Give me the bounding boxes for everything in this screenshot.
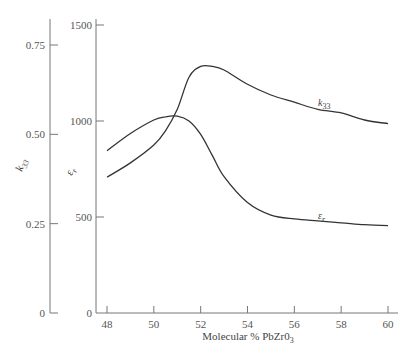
k33-axis (50, 19, 58, 313)
x-tick-label: 58 (336, 318, 348, 330)
x-tick-label: 50 (148, 318, 160, 330)
er-axis-title: εr (63, 165, 80, 178)
k33-tick-label: 0.50 (26, 128, 46, 140)
er-tick-label: 0 (87, 307, 93, 319)
svg-text:εr: εr (63, 165, 80, 178)
curves (107, 65, 388, 225)
k33-tick-label: 0.25 (26, 218, 46, 230)
k33-tick-label: 0.75 (26, 39, 46, 51)
k33-curve-label: k33 (318, 97, 330, 111)
er-tick-label: 500 (76, 211, 93, 223)
x-tick-label: 52 (195, 318, 206, 330)
x-tick-label: 48 (102, 318, 114, 330)
k33-tick-label: 0 (40, 307, 46, 319)
x-tick-label: 60 (383, 318, 395, 330)
x-tick-label: 54 (242, 318, 254, 330)
chart-canvas: 4850525456586000.250.500.75050010001500 … (0, 0, 418, 359)
er-tick-label: 1500 (70, 19, 93, 31)
k33-axis-title: k33 (13, 156, 32, 173)
k33-curve (107, 65, 388, 177)
svg-text:k33: k33 (13, 156, 32, 173)
er-curve-label: εr (318, 210, 326, 224)
x-tick-label: 56 (289, 318, 301, 330)
x-axis-title: Molecular % PbZr03 (202, 330, 293, 345)
er-curve (107, 116, 388, 226)
er-tick-label: 1000 (70, 115, 93, 127)
